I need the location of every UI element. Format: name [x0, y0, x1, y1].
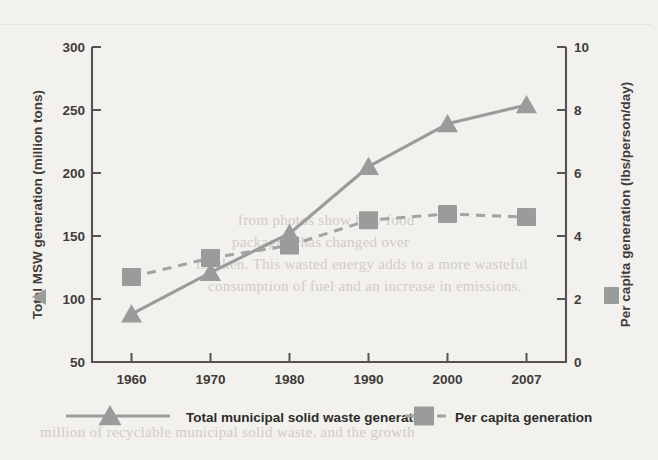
- legend-label-total-msw: Total municipal solid waste generation: [186, 410, 433, 425]
- x-axis-tick-label: 1980: [274, 372, 304, 387]
- right-axis-tick-label: 4: [574, 229, 582, 244]
- left-axis-tick-label: 300: [62, 40, 85, 55]
- right-axis-tick-label: 2: [574, 292, 582, 307]
- axis-frame: [92, 47, 566, 362]
- data-point-square-icon[interactable]: [122, 268, 141, 286]
- data-point-square-icon[interactable]: [438, 205, 457, 223]
- right-axis-title: Per capita generation (lbs/person/day): [618, 82, 633, 327]
- msw-generation-chart: 5010015020025030002468101960197019801990…: [0, 0, 658, 460]
- right-axis-tick-label: 6: [574, 166, 582, 181]
- x-axis-tick-label: 1970: [195, 372, 225, 387]
- x-axis-tick-label: 2000: [432, 372, 462, 387]
- left-axis-title: Total MSW generation (million tons): [30, 90, 45, 319]
- left-axis-tick-label: 100: [62, 292, 85, 307]
- right-axis-tick-label: 10: [574, 40, 589, 55]
- data-point-square-icon[interactable]: [359, 211, 378, 229]
- x-axis-tick-label: 1960: [116, 372, 146, 387]
- data-point-square-icon[interactable]: [280, 236, 299, 254]
- data-point-square-icon[interactable]: [201, 249, 220, 267]
- chart-container: 5010015020025030002468101960197019801990…: [0, 0, 658, 460]
- data-point-triangle-icon[interactable]: [516, 95, 537, 113]
- legend-square-icon: [414, 407, 434, 426]
- left-axis-tick-label: 200: [62, 166, 85, 181]
- right-axis-title-square-icon: [604, 287, 619, 304]
- series-line-total-msw: [132, 105, 527, 314]
- left-axis-tick-label: 250: [62, 103, 85, 118]
- right-axis-tick-label: 0: [574, 355, 582, 370]
- data-point-square-icon[interactable]: [517, 208, 536, 226]
- left-axis-tick-label: 50: [70, 355, 85, 370]
- right-axis-tick-label: 8: [574, 103, 582, 118]
- series-line-per-capita: [132, 214, 527, 277]
- data-point-triangle-icon[interactable]: [358, 157, 379, 175]
- left-axis-tick-label: 150: [62, 229, 85, 244]
- legend-label-per-capita: Per capita generation: [455, 410, 592, 425]
- data-point-triangle-icon[interactable]: [121, 304, 142, 322]
- x-axis-tick-label: 1990: [353, 372, 383, 387]
- x-axis-tick-label: 2007: [511, 372, 541, 387]
